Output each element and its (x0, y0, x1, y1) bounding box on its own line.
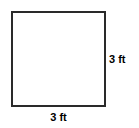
square-shape (11, 11, 106, 107)
diagram-canvas: 3 ft 3 ft (0, 0, 139, 128)
dimension-label-bottom: 3 ft (11, 111, 106, 123)
dimension-label-right: 3 ft (109, 53, 126, 65)
